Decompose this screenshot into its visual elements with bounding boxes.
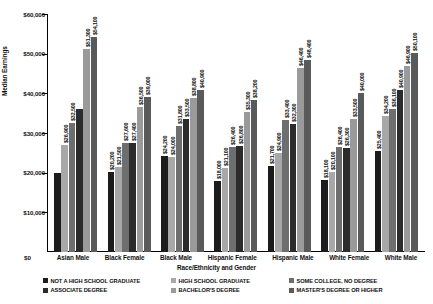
bar: $26,400 (336, 147, 343, 252)
bar: $46,900 (404, 66, 411, 252)
bar-value-label: $40,000 (359, 73, 365, 91)
bar (76, 109, 83, 252)
bar-group: $18,000$21,100$26,400$26,800$35,300$38,2… (214, 14, 257, 252)
x-axis-label: Hispanic Female (208, 254, 257, 261)
legend-label: BACHELOR'S DEGREE (179, 287, 240, 293)
bar-value-label: $33,400 (284, 99, 290, 117)
bar-value-label: $26,400 (231, 127, 237, 145)
bar: $40,900 (397, 90, 404, 252)
bar: $21,100 (222, 168, 229, 252)
bar-value-label: $54,100 (92, 17, 98, 35)
bar: $26,900 (61, 145, 68, 252)
bar: $21,700 (268, 166, 275, 252)
bar: $32,500 (69, 123, 76, 252)
legend-label: NOT A HIGH SCHOOL GRADUATE (51, 278, 141, 284)
legend-swatch (171, 288, 176, 293)
bar: $26,800 (236, 146, 243, 252)
bar-value-label: $38,200 (252, 80, 258, 98)
bar: $27,600 (122, 143, 129, 252)
bar-value-label: $39,000 (146, 77, 152, 95)
bar: $40,900 (197, 90, 204, 252)
legend-label: HIGH SCHOOL GRADUATE (179, 278, 250, 284)
bar-group: $21,700$24,900$33,400$32,300$46,400$48,4… (268, 14, 311, 252)
legend-label: ASSOCIATE DEGREE (51, 287, 108, 293)
legend-swatch (289, 288, 294, 293)
bar: $38,200 (251, 100, 258, 252)
bar: $20,200 (108, 172, 115, 252)
bar: $21,500 (115, 167, 122, 252)
y-axis-label: $50,000 (1, 50, 45, 57)
bar: $24,000 (168, 157, 175, 252)
legend-swatch (43, 288, 48, 293)
bar-value-label: $48,400 (306, 40, 312, 58)
x-axis-label: White Male (385, 254, 417, 261)
bar: $25,400 (375, 151, 382, 252)
legend-item[interactable]: ASSOCIATE DEGREE (43, 287, 171, 293)
y-axis-label: $20,000 (1, 169, 45, 176)
x-axis-label: Black Male (160, 254, 192, 261)
x-axis-label: White Female (329, 254, 369, 261)
bar: $50,100 (411, 53, 418, 252)
bar: $51,300 (83, 49, 90, 252)
bar: $34,200 (382, 116, 389, 252)
bar: $33,400 (282, 120, 289, 252)
legend-item[interactable]: BACHELOR'S DEGREE (171, 287, 289, 293)
bar-value-label: $50,100 (413, 33, 419, 51)
bar: $38,800 (190, 98, 197, 252)
y-axis-zero-label: $0 (24, 254, 31, 261)
bar: $33,500 (183, 119, 190, 252)
legend-item[interactable]: SOME COLLEGE, NO DEGREE (289, 278, 393, 284)
bar-value-label: $26,400 (337, 127, 343, 145)
bar: $18,100 (321, 180, 328, 252)
bar-group: $26,900$32,500$51,300$54,100 (54, 14, 97, 252)
bar-group: $25,400$34,200$36,100$40,900$46,900$50,1… (375, 14, 418, 252)
bar: $20,100 (329, 172, 336, 252)
x-axis-label: Asian Male (57, 254, 89, 261)
bar: $26,300 (343, 148, 350, 252)
bar: $35,300 (244, 112, 251, 252)
bar: $39,000 (144, 97, 151, 252)
y-axis-label: $30,000 (1, 130, 45, 137)
bar: $36,500 (137, 107, 144, 252)
x-axis-labels: Asian MaleBlack FemaleBlack MaleHispanic… (49, 254, 425, 261)
legend-label: MASTER'S DEGREE OR HIGHER (297, 287, 383, 293)
legend-swatch (289, 278, 294, 283)
legend-swatch (43, 278, 48, 283)
bar-value-label: $24,200 (163, 136, 169, 154)
bar: $27,400 (129, 143, 136, 252)
bar: $40,000 (358, 93, 365, 252)
bar-value-label: $40,900 (199, 69, 205, 87)
legend-label: SOME COLLEGE, NO DEGREE (297, 278, 378, 284)
bar: $33,500 (350, 119, 357, 252)
plot-wrapper: $26,900$32,500$51,300$54,100$20,200$21,5… (47, 14, 425, 252)
bar-groups: $26,900$32,500$51,300$54,100$20,200$21,5… (49, 14, 423, 252)
bar (54, 173, 61, 252)
bar-group: $18,100$20,100$26,400$26,300$33,500$40,0… (321, 14, 364, 252)
y-axis-label: $10,000 (1, 209, 45, 216)
x-axis-label: Hispanic Male (272, 254, 313, 261)
bar: $24,900 (275, 153, 282, 252)
bar-group: $24,200$24,000$31,800$33,500$38,800$40,9… (161, 14, 204, 252)
legend-item[interactable]: HIGH SCHOOL GRADUATE (171, 278, 289, 284)
bar-value-label: $27,600 (124, 122, 130, 140)
y-axis-label: $40,000 (1, 90, 45, 97)
x-axis-label: Black Female (105, 254, 145, 261)
legend-item[interactable]: MASTER'S DEGREE OR HIGHER (289, 287, 393, 293)
bar-group: $20,200$21,500$27,600$27,400$36,500$39,0… (108, 14, 151, 252)
x-axis-title: Race/Ethnicity and Gender (0, 264, 433, 271)
bar: $54,100 (91, 37, 98, 252)
chart-legend: NOT A HIGH SCHOOL GRADUATEHIGH SCHOOL GR… (43, 276, 393, 295)
legend-swatch (171, 278, 176, 283)
bar: $32,300 (290, 124, 297, 252)
bar: $46,400 (297, 68, 304, 252)
bar: $36,100 (389, 109, 396, 252)
bar: $18,000 (214, 181, 221, 252)
legend-item[interactable]: NOT A HIGH SCHOOL GRADUATE (43, 278, 171, 284)
y-axis-label: $60,000 (1, 11, 45, 18)
bar: $48,400 (304, 60, 311, 252)
median-earnings-bar-chart: Median Earnings $26,900$32,500$51,300$54… (0, 0, 433, 304)
bar: $24,200 (161, 156, 168, 252)
bar: $26,400 (229, 147, 236, 252)
bar: $31,800 (176, 126, 183, 252)
